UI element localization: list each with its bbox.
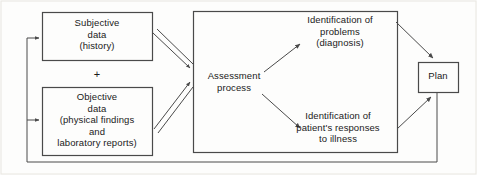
identification-of-responses-label: Identification of patient's responses to… — [282, 110, 394, 145]
assessment-process-label: Assessment process — [196, 70, 272, 93]
subjective-data-label: Subjective data (history) — [42, 17, 152, 52]
subjective-to-assessment-arrow — [153, 29, 193, 68]
plus-operator: + — [42, 69, 152, 81]
objective-to-assessment-arrow — [154, 82, 193, 133]
identification-of-problems-label: Identification of problems (diagnosis) — [288, 14, 392, 49]
problems-to-plan-arrow — [396, 22, 433, 58]
responses-to-plan-arrow — [397, 97, 431, 129]
objective-data-label: Objective data (physical findings and la… — [42, 91, 152, 149]
diagram-canvas: Subjective data (history) + Objective da… — [0, 0, 477, 175]
plan-label: Plan — [418, 70, 458, 82]
